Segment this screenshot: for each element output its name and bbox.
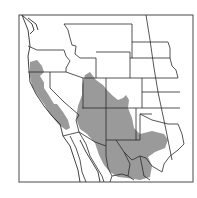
range-map <box>0 0 197 198</box>
